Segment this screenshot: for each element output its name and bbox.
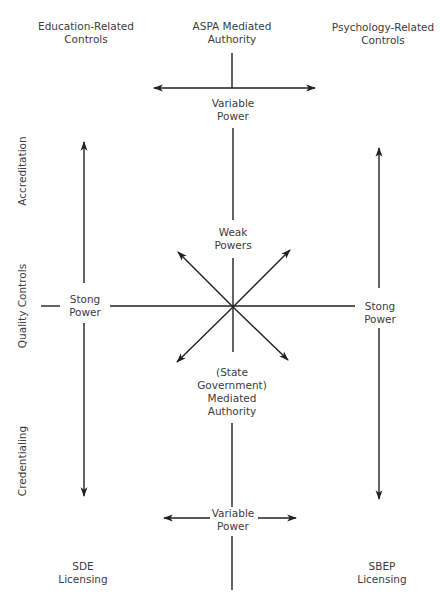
footer-sde-line2: Licensing [58, 573, 107, 586]
header-aspa-line1: ASPA Mediated [193, 20, 272, 33]
footer-sde-licensing: SDE Licensing [58, 560, 107, 586]
state-authority-line3: Mediated [197, 392, 267, 405]
diag-arrow-nw [178, 252, 233, 307]
strong-power-left-line2: Power [69, 306, 101, 319]
header-education-controls: Education-Related Controls [38, 20, 134, 46]
node-strong-power-right: Stong Power [364, 300, 396, 326]
header-education-line1: Education-Related [38, 20, 134, 33]
node-strong-power-left: Stong Power [69, 293, 101, 319]
header-aspa-line2: Authority [193, 33, 272, 46]
strong-power-left-line1: Stong [69, 293, 101, 306]
node-variable-power-top: Variable Power [212, 97, 255, 123]
state-authority-line1: (State [197, 366, 267, 379]
node-weak-powers: Weak Powers [214, 226, 251, 252]
header-psychology-line2: Controls [332, 34, 434, 47]
header-psychology-controls: Psychology-Related Controls [332, 21, 434, 47]
state-authority-line2: Government) [197, 379, 267, 392]
diag-arrow-se [233, 307, 288, 360]
variable-power-bottom-line2: Power [212, 520, 255, 533]
variable-power-top-line2: Power [212, 110, 255, 123]
side-label-quality-controls: Quality Controls [16, 264, 29, 348]
node-state-government-authority: (State Government) Mediated Authority [197, 366, 267, 418]
header-aspa-authority: ASPA Mediated Authority [193, 20, 272, 46]
weak-powers-line1: Weak [214, 226, 251, 239]
power-structure-diagram: Education-Related Controls ASPA Mediated… [0, 0, 440, 598]
header-psychology-line1: Psychology-Related [332, 21, 434, 34]
variable-power-bottom-line1: Variable [212, 507, 255, 520]
strong-power-right-line1: Stong [364, 300, 396, 313]
header-education-line2: Controls [38, 33, 134, 46]
diag-arrow-sw [177, 307, 233, 362]
side-label-credentialing: Credentialing [16, 426, 29, 496]
diag-arrow-ne [233, 250, 290, 307]
side-label-accreditation: Accreditation [16, 136, 29, 205]
variable-power-top-line1: Variable [212, 97, 255, 110]
footer-sbep-line2: Licensing [357, 573, 406, 586]
strong-power-right-line2: Power [364, 313, 396, 326]
weak-powers-line2: Powers [214, 239, 251, 252]
footer-sbep-licensing: SBEP Licensing [357, 560, 406, 586]
state-authority-line4: Authority [197, 405, 267, 418]
node-variable-power-bottom: Variable Power [212, 507, 255, 533]
footer-sbep-line1: SBEP [357, 560, 406, 573]
footer-sde-line1: SDE [58, 560, 107, 573]
